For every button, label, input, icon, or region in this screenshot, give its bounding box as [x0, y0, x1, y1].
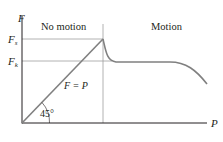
angle-label: 45° — [40, 108, 54, 119]
no-motion-label: No motion — [41, 21, 87, 32]
y-axis-label: F — [17, 12, 25, 24]
friction-diagram: F P Fs Fk No motion Motion F = P 45° — [0, 0, 223, 142]
kinetic-friction-label: Fk — [7, 55, 19, 69]
f-equals-p-line — [22, 39, 103, 123]
motion-label: Motion — [151, 21, 183, 32]
x-axis-label: P — [210, 117, 218, 129]
friction-curve — [103, 39, 207, 84]
line-equation-label: F = P — [63, 80, 88, 91]
static-friction-label: Fs — [7, 33, 18, 47]
